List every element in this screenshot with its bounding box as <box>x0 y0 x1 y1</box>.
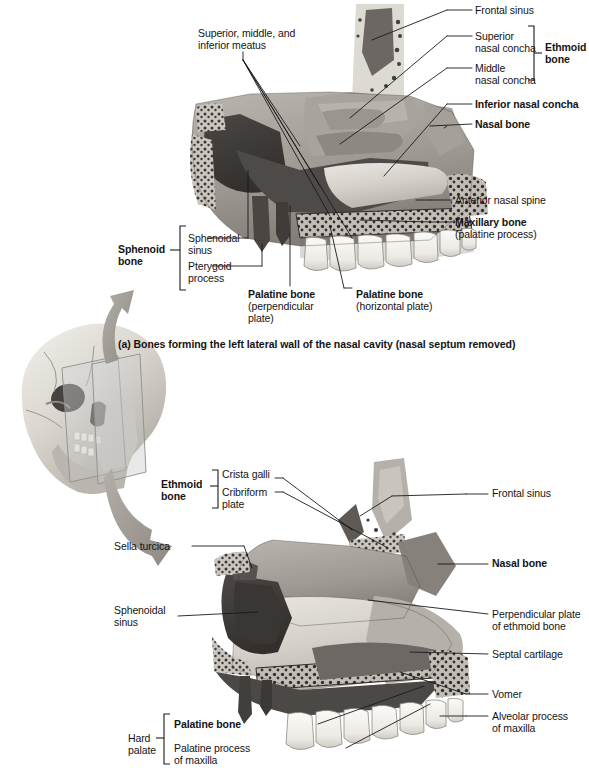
label-palatine-process-of-maxilla: Palatine process of maxilla <box>174 742 250 766</box>
label-sphenoid-bone: Sphenoid bone <box>118 243 165 267</box>
panel-a-caption: (a) Bones forming the left lateral wall … <box>118 338 515 351</box>
frontal-sinus-region <box>352 4 404 100</box>
label-hard-palate: Hard palate <box>128 732 156 756</box>
label-palatine-bone-horizontal-sub: (horizontal plate) <box>356 300 432 312</box>
label-cribriform-plate: Cribriform plate <box>222 486 267 510</box>
label-maxillary-bone: Maxillary bone <box>455 216 527 228</box>
label-nasal-bone: Nasal bone <box>475 118 530 130</box>
label-palatine-bone-b: Palatine bone <box>174 718 241 730</box>
sagittal-plane-indicators <box>62 354 146 484</box>
label-meatus: Superior, middle, and inferior meatus <box>198 27 295 51</box>
upper-teeth-row-b <box>286 698 463 749</box>
label-palatine-bone-perpendicular-sub: (perpendicular plate) <box>248 300 314 324</box>
label-septal-cartilage: Septal cartilage <box>492 648 563 660</box>
label-pterygoid-process: Pterygoid process <box>188 260 231 284</box>
label-sella-turcica: Sella turcica <box>114 540 170 552</box>
label-sphenoidal-sinus-b: Sphenoidal sinus <box>114 604 166 628</box>
label-palatine-bone-horizontal: Palatine bone <box>356 288 423 300</box>
frontal-sinus-region-b <box>366 458 412 542</box>
label-ethmoid-bone-b: Ethmoid bone <box>161 478 202 502</box>
label-sphenoidal-sinus: Sphenoidal sinus <box>188 232 240 256</box>
upper-teeth-row-a <box>300 228 476 271</box>
panel-b-leader-lines <box>178 478 488 748</box>
label-nasal-bone-b: Nasal bone <box>492 557 547 569</box>
label-perpendicular-plate-of-ethmoid: Perpendicular plate of ethmoid bone <box>492 608 581 632</box>
label-ethmoid-bone: Ethmoid bone <box>545 41 586 65</box>
label-frontal-sinus: Frontal sinus <box>475 4 534 16</box>
arrow-to-panel-a <box>102 290 134 364</box>
panel-a-leader-lines <box>208 10 472 288</box>
label-palatine-bone-perpendicular: Palatine bone <box>248 288 315 300</box>
label-anterior-nasal-spine: Anterior nasal spine <box>455 194 546 206</box>
label-superior-nasal-concha: Superior nasal concha <box>475 30 536 54</box>
label-alveolar-process-of-maxilla: Alveolar process of maxilla <box>492 710 568 734</box>
label-crista-galli: Crista galli <box>222 468 270 480</box>
label-maxillary-bone-sub: (palatine process) <box>455 228 537 240</box>
label-inferior-nasal-concha: Inferior nasal concha <box>475 98 579 110</box>
label-frontal-sinus-b: Frontal sinus <box>492 487 551 499</box>
label-middle-nasal-concha: Middle nasal concha <box>475 62 536 86</box>
label-vomer: Vomer <box>492 688 522 700</box>
anatomy-figure-page: Superior, middle, and inferior meatus Fr… <box>0 0 589 775</box>
